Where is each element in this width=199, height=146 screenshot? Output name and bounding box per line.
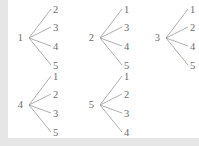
star-graph-4-edges — [14, 72, 76, 138]
graph-leaf-label: 4 — [124, 42, 133, 53]
graph-leaf-label: 2 — [53, 90, 62, 101]
graph-root-label: 4 — [14, 100, 23, 111]
graph-leaf-label: 5 — [190, 61, 199, 72]
star-graph-4: 4 1 2 3 5 — [14, 72, 76, 138]
star-graph-1-edges — [14, 5, 76, 71]
graph-root-label: 5 — [85, 100, 94, 111]
graph-leaf-label: 2 — [124, 90, 133, 101]
graph-leaf-label: 3 — [53, 23, 62, 34]
graph-leaf-label: 5 — [53, 128, 62, 139]
star-graph-5: 5 1 2 3 4 — [85, 72, 147, 138]
graph-leaf-label: 1 — [53, 72, 62, 83]
graph-leaf-label: 1 — [190, 5, 199, 16]
graph-leaf-label: 5 — [124, 61, 133, 72]
star-graph-2-edges — [85, 5, 147, 71]
graph-leaf-label: 2 — [190, 23, 199, 34]
graph-root-label: 2 — [85, 33, 94, 44]
star-graph-2: 2 1 3 4 5 — [85, 5, 147, 71]
figure-canvas: 1 2 3 4 5 2 1 3 4 5 — [0, 0, 199, 146]
graph-root-label: 1 — [14, 33, 23, 44]
graph-leaf-label: 1 — [124, 72, 133, 83]
graph-root-label: 3 — [151, 33, 160, 44]
graph-leaf-label: 3 — [124, 23, 133, 34]
graph-leaf-label: 3 — [53, 109, 62, 120]
star-graph-1: 1 2 3 4 5 — [14, 5, 76, 71]
graph-leaf-label: 2 — [53, 5, 62, 16]
graph-leaf-label: 4 — [190, 42, 199, 53]
graph-leaf-label: 1 — [124, 5, 133, 16]
figure-panel: 1 2 3 4 5 2 1 3 4 5 — [8, 0, 199, 138]
star-graph-5-edges — [85, 72, 147, 138]
graph-leaf-label: 4 — [124, 128, 133, 139]
graph-leaf-label: 3 — [124, 109, 133, 120]
star-graph-3: 3 1 2 4 5 — [151, 5, 199, 71]
graph-leaf-label: 4 — [53, 42, 62, 53]
graph-leaf-label: 5 — [53, 61, 62, 72]
